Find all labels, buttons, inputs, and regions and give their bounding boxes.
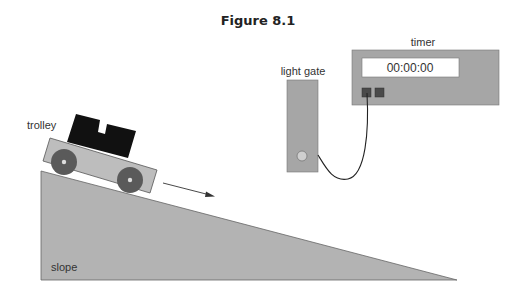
figure-title: Figure 8.1 xyxy=(221,13,296,28)
wheel-rear xyxy=(117,167,143,193)
trolley-label: trolley xyxy=(27,119,57,131)
timer-button-stop[interactable] xyxy=(375,88,384,97)
timer: timer 00:00:00 xyxy=(352,36,499,105)
timer-display-value: 00:00:00 xyxy=(387,61,434,75)
timer-button-start[interactable] xyxy=(362,88,371,97)
light-sensor-icon xyxy=(297,151,307,161)
motion-arrow-icon xyxy=(163,183,215,197)
figure-canvas: Figure 8.1 slope trolley light gate tim xyxy=(0,0,517,295)
connecting-cable xyxy=(318,93,368,179)
slope-label: slope xyxy=(51,261,77,273)
timer-label: timer xyxy=(411,36,436,48)
wheel-front xyxy=(51,149,77,175)
light-gate-label: light gate xyxy=(281,65,326,77)
slope: slope xyxy=(41,171,457,280)
